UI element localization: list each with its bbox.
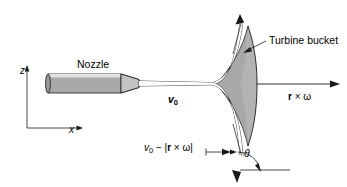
relvel-minus-symbol: − | [153, 142, 167, 153]
relvel-times-symbol: × [171, 142, 182, 153]
blade-speed-arrow [257, 81, 340, 88]
incoming-jet-stream [139, 81, 213, 86]
relvel-close-bar: | [190, 142, 193, 153]
nozzle-top-highlight [47, 74, 121, 77]
relative-velocity-leader [206, 149, 237, 156]
nozzle-body [46, 74, 139, 93]
jet-velocity-label: v0 [168, 94, 178, 107]
blade-speed-arrowhead [330, 81, 340, 88]
theta-label: θ [244, 148, 250, 159]
jet-velocity-subscript: 0 [174, 98, 178, 107]
turbine-bucket-label: Turbine bucket [269, 35, 338, 46]
theta-arc-arrowhead [255, 163, 261, 172]
x-axis-label: x [69, 125, 74, 135]
lower-jet-arrowhead [232, 170, 241, 183]
relative-velocity-label: v0 − |r × ω| [144, 143, 193, 155]
relvel-leader-arrowhead [222, 149, 231, 155]
nozzle-rear-opening [46, 74, 51, 93]
blade-speed-omega-symbol: ω [303, 91, 311, 102]
blade-speed-times-symbol: × [292, 91, 303, 102]
nozzle-label: Nozzle [77, 59, 109, 70]
blade-speed-label: r × ω [288, 92, 311, 102]
z-axis-label: z [20, 66, 25, 76]
nozzle-taper-cone [121, 74, 139, 93]
z-axis-arrowhead [25, 65, 30, 72]
x-axis-arrowhead [77, 126, 84, 131]
relvel-jet-arrowhead [230, 149, 237, 154]
turbine-bucket-diagram: Nozzle Turbine bucket v0 r × ω v0 − |r ×… [0, 0, 347, 187]
